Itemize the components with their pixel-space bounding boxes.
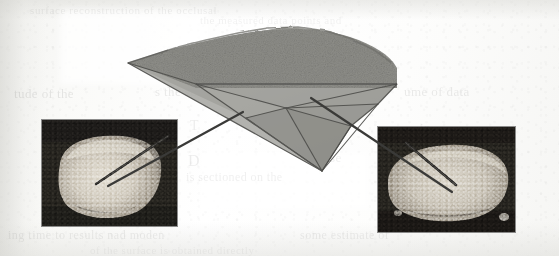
photo-inset-right-noise: [378, 127, 515, 232]
photo-inset-right: [378, 127, 515, 232]
photo-inset-left-frame: [42, 120, 177, 226]
scanned-figure-page: surface reconstruction of the occlusalth…: [0, 0, 559, 256]
photo-inset-left-noise: [42, 120, 177, 226]
photo-inset-right-frame: [378, 127, 515, 232]
paper-left-margin-shading: [0, 0, 46, 256]
photo-inset-left: [42, 120, 177, 226]
